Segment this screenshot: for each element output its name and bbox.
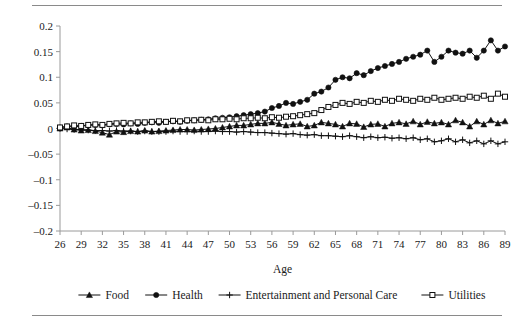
data-point-marker	[319, 108, 324, 113]
data-point-marker	[361, 135, 367, 141]
x-tick-label: 89	[500, 238, 512, 250]
x-tick-label: 35	[118, 238, 130, 250]
data-point-marker	[86, 122, 91, 127]
line-chart: 0.20.150.10.050–0.05–0.1–0.15–0.2 262932…	[0, 0, 532, 326]
data-point-marker	[284, 114, 289, 119]
data-point-marker	[340, 100, 345, 105]
data-point-marker	[305, 112, 310, 117]
series-polyline	[60, 40, 505, 127]
data-point-marker	[495, 141, 501, 147]
data-point-marker	[171, 118, 176, 123]
data-point-marker	[170, 128, 176, 134]
data-point-marker	[325, 132, 331, 138]
data-point-marker	[255, 115, 260, 120]
x-tick-label: 83	[457, 238, 469, 250]
data-point-marker	[199, 117, 204, 122]
data-point-marker	[353, 134, 359, 140]
data-point-marker	[481, 141, 487, 147]
x-tick-label: 77	[415, 238, 427, 250]
data-point-marker	[481, 93, 486, 98]
x-axis-title: Age	[273, 263, 292, 276]
y-tick-label: 0	[48, 123, 54, 135]
data-point-marker	[269, 130, 275, 136]
data-point-marker	[283, 131, 289, 137]
data-point-marker	[396, 119, 402, 125]
x-tick-label: 62	[309, 238, 320, 250]
data-point-marker	[418, 52, 423, 57]
x-tick-label: 50	[224, 238, 236, 250]
legend-item-food[interactable]: Food	[78, 289, 129, 301]
x-tick-label: 74	[394, 238, 406, 250]
x-tick-labels: 2629323538414447505356596265687174778083…	[55, 238, 512, 250]
data-point-marker	[142, 120, 147, 125]
data-point-marker	[488, 38, 493, 43]
data-point-marker	[389, 135, 395, 141]
data-point-marker	[128, 121, 133, 126]
data-point-marker	[368, 98, 373, 103]
series-polyline	[60, 120, 505, 134]
data-point-marker	[460, 51, 465, 56]
data-point-marker	[446, 48, 451, 53]
data-point-marker	[248, 116, 253, 121]
data-point-marker	[397, 96, 402, 101]
data-point-marker	[375, 65, 380, 70]
data-point-marker	[467, 48, 472, 53]
data-point-marker	[340, 75, 345, 80]
data-point-marker	[319, 89, 324, 94]
data-point-marker	[326, 85, 331, 90]
data-point-marker	[396, 135, 402, 141]
data-point-marker	[446, 96, 451, 101]
data-point-marker	[368, 69, 373, 74]
data-point-marker	[283, 100, 288, 105]
data-point-marker	[460, 96, 465, 101]
data-point-marker	[114, 121, 119, 126]
data-point-marker	[149, 119, 154, 124]
data-point-marker	[425, 97, 430, 102]
legend-item-health[interactable]: Health	[145, 289, 203, 301]
y-tick-label: 0.15	[34, 46, 54, 58]
data-point-marker	[502, 118, 508, 124]
data-point-marker	[298, 99, 303, 104]
data-point-marker	[411, 98, 416, 103]
data-point-marker	[438, 138, 444, 144]
data-point-marker	[488, 96, 493, 101]
data-point-marker	[404, 56, 409, 61]
y-tick-label: –0.15	[27, 199, 53, 211]
data-point-marker	[276, 103, 281, 108]
data-point-marker	[318, 119, 324, 125]
legend-item-utilities[interactable]: Utilities	[421, 289, 486, 301]
data-point-marker	[154, 292, 159, 297]
data-point-marker	[466, 140, 472, 146]
x-tick-label: 53	[245, 238, 257, 250]
data-point-marker	[346, 132, 352, 138]
legend-label: Entertainment and Personal Care	[246, 289, 398, 301]
y-tick-label: –0.2	[33, 225, 53, 237]
x-tick-label: 86	[478, 238, 490, 250]
legend-label: Health	[172, 289, 203, 301]
data-point-marker	[481, 121, 487, 127]
data-point-marker	[438, 119, 444, 125]
data-point-marker	[226, 128, 232, 134]
data-point-marker	[304, 132, 310, 138]
data-point-marker	[65, 124, 70, 129]
legend-item-entertainment-and-personal-care[interactable]: Entertainment and Personal Care	[219, 289, 398, 301]
data-point-marker	[220, 117, 225, 122]
data-point-marker	[135, 120, 140, 125]
chart-legend: FoodHealthEntertainment and Personal Car…	[78, 289, 486, 301]
x-tick-label: 29	[76, 238, 88, 250]
data-point-marker	[375, 99, 380, 104]
figure-container: 0.20.150.10.050–0.05–0.1–0.15–0.2 262932…	[0, 0, 532, 326]
data-point-marker	[474, 95, 479, 100]
data-point-marker	[262, 109, 267, 114]
data-point-marker	[333, 102, 338, 107]
data-point-marker	[430, 293, 435, 298]
data-point-marker	[382, 97, 387, 102]
data-point-marker	[432, 59, 437, 64]
data-point-marker	[191, 128, 197, 134]
data-point-marker	[290, 130, 296, 136]
data-point-marker	[163, 119, 168, 124]
data-point-marker	[452, 117, 458, 123]
data-point-marker	[233, 129, 239, 135]
data-point-marker	[185, 118, 190, 123]
data-point-marker	[156, 119, 161, 124]
